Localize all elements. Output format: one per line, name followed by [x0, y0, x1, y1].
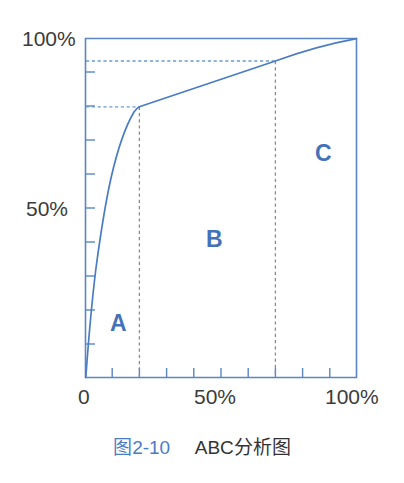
- y-axis-label-100: 100%: [22, 27, 76, 51]
- abc-analysis-chart: [0, 0, 404, 483]
- y-axis-ticks: [86, 72, 96, 344]
- abc-analysis-figure: 100% 50% 0 50% 100% A B C 图2-10 ABC分析图: [0, 0, 404, 483]
- y-axis-label-50: 50%: [26, 197, 68, 221]
- x-axis-label-50: 50%: [194, 385, 236, 409]
- region-label-a: A: [110, 310, 127, 337]
- figure-caption: 图2-10 ABC分析图: [0, 432, 404, 459]
- region-label-b: B: [206, 226, 223, 253]
- x-axis-label-100: 100%: [325, 385, 379, 409]
- x-axis-label-0: 0: [78, 385, 90, 409]
- figure-caption-title: ABC分析图: [195, 437, 291, 458]
- region-label-c: C: [315, 140, 332, 167]
- figure-caption-number: 图2-10: [113, 437, 170, 458]
- x-axis-ticks: [112, 368, 330, 378]
